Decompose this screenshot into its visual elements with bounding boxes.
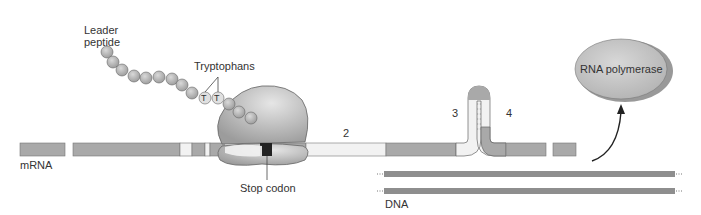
tryptophan-pointer-1: [205, 77, 218, 92]
attenuation-diagram: Leader peptide Tryptophans T T mRNA Stop…: [0, 0, 701, 215]
ribosome-large-subunit: [218, 86, 308, 144]
region-3-label: 3: [452, 107, 458, 119]
leader-peptide-label: Leader peptide: [84, 24, 120, 48]
stop-codon-label: Stop codon: [240, 182, 296, 194]
release-arrow: [592, 112, 621, 161]
dna-duplex: [377, 171, 683, 194]
dna-label: DNA: [385, 198, 408, 210]
terminator-hairpin: [456, 86, 576, 156]
dna-strand-top: [384, 171, 675, 177]
leader-peptide-chain: [101, 46, 257, 124]
region-4-label: 4: [506, 107, 512, 119]
tryptophan-letter-2: T: [214, 92, 220, 104]
arrowhead-icon: [617, 104, 625, 114]
ribosome: [218, 86, 308, 166]
dna-strand-bottom: [384, 188, 675, 194]
tryptophans-label: Tryptophans: [194, 60, 255, 72]
mrna-label: mRNA: [20, 159, 52, 171]
tryptophan-letter-1: T: [201, 92, 207, 104]
region-2-label: 2: [343, 127, 349, 139]
rna-polymerase-label: RNA polymerase: [580, 63, 663, 75]
